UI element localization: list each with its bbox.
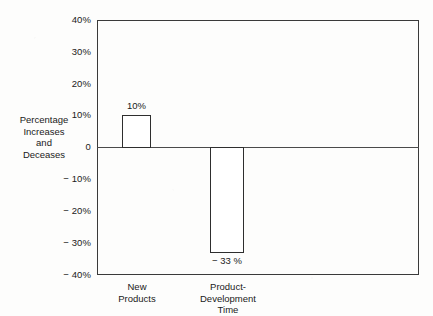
y-axis-tick-labels: 40% 30% 20% 10% 0 − 10% − 20% − 30% − 40… — [29, 0, 91, 316]
y-tick-label-neg-20: − 20% — [31, 206, 91, 216]
y-tick-label-20: 20% — [31, 79, 91, 89]
x-category-product-development-time-line-1: Product- — [180, 281, 276, 293]
bar-value-label-product-development-time: − 33 % — [195, 255, 259, 266]
y-tick-label-30: 30% — [31, 47, 91, 57]
x-category-product-development-time-line-2: Development — [180, 293, 276, 305]
y-tick-label-neg-10: − 10% — [31, 174, 91, 184]
bar-value-label-new-products: 10% — [105, 100, 168, 111]
x-category-product-development-time-line-3: Time — [180, 304, 276, 316]
x-category-label-new-products: New Products — [107, 281, 167, 304]
y-tick-label-neg-40: − 40% — [31, 270, 91, 280]
y-tick-label-0: 0 — [31, 142, 91, 152]
y-tick-label-neg-30: − 30% — [31, 238, 91, 248]
bar-product-development-time[interactable] — [210, 147, 244, 253]
y-tick-label-10: 10% — [31, 110, 91, 120]
chart-figure: Percentage Increases and Deceases 40% 30… — [0, 0, 433, 316]
x-category-label-product-development-time: Product- Development Time — [180, 281, 276, 316]
y-tick-label-40: 40% — [31, 15, 91, 25]
x-category-new-products-line-2: Products — [107, 293, 167, 305]
x-category-new-products-line-1: New — [107, 281, 167, 293]
bar-new-products[interactable] — [122, 115, 151, 148]
